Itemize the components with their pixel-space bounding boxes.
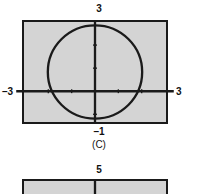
- graph-plot: [24, 22, 166, 122]
- next-graph-viewing-window: [22, 179, 168, 194]
- y-max-label: 3: [0, 3, 198, 14]
- next-graph-plot: [24, 181, 166, 194]
- figure-c: 3 –3 3 –1 (C): [0, 0, 198, 155]
- x-max-label: 3: [176, 86, 182, 97]
- y-min-label: –1: [0, 126, 198, 137]
- graph-viewing-window: [22, 20, 168, 124]
- figure-next: 5: [0, 155, 198, 194]
- next-y-max-label: 5: [0, 164, 198, 175]
- figure-caption: (C): [0, 139, 198, 150]
- x-min-label: –3: [2, 86, 13, 97]
